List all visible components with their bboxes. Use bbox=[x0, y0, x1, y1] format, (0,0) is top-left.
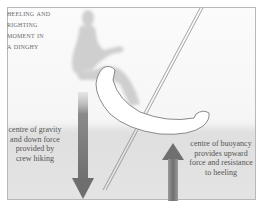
gravity-label: centre of gravity and down force provide… bbox=[6, 125, 64, 163]
buoyancy-label: centre of buoyancy provides upward force… bbox=[189, 139, 253, 177]
buoyancy-label-line: provides upward bbox=[189, 149, 253, 159]
title-line: a dinghy bbox=[7, 41, 87, 52]
buoyancy-label-line: force and resistance bbox=[189, 158, 253, 168]
title-line: moment in bbox=[7, 30, 87, 41]
down-arrow bbox=[72, 92, 94, 199]
title-line: righting bbox=[7, 19, 87, 30]
up-arrow bbox=[162, 143, 184, 201]
dinghy-hull bbox=[96, 66, 209, 134]
diagram-title: Heeling and righting moment in a dinghy bbox=[7, 8, 87, 52]
gravity-label-line: provided by bbox=[6, 144, 64, 154]
gravity-label-line: crew hiking bbox=[6, 154, 64, 164]
buoyancy-label-line: centre of buoyancy bbox=[189, 139, 253, 149]
gravity-label-line: centre of gravity bbox=[6, 125, 64, 135]
gravity-label-line: and down force bbox=[6, 135, 64, 145]
title-line: Heeling and bbox=[7, 8, 87, 19]
buoyancy-label-line: to heeling bbox=[189, 168, 253, 178]
